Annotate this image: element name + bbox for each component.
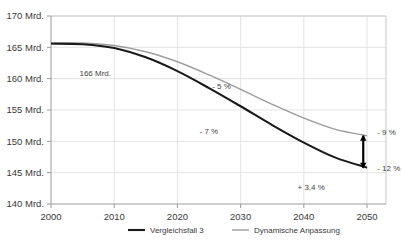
y-tick-label: 140 Mrd.: [7, 198, 45, 209]
x-tick-label: 2030: [230, 211, 251, 222]
plus-3-4-percent-label: + 3,4 %: [298, 183, 325, 192]
line-chart: 140 Mrd.145 Mrd.150 Mrd.155 Mrd.160 Mrd.…: [0, 0, 402, 246]
legend-label-0: Vergleichsfall 3: [150, 226, 204, 235]
y-tick-label: 165 Mrd.: [7, 42, 45, 53]
minus-5-percent-label: - 5 %: [212, 82, 231, 91]
minus-9-percent-label: - 9 %: [377, 128, 396, 137]
x-tick-label: 2000: [40, 211, 61, 222]
start-value-label: 166 Mrd.: [79, 69, 111, 78]
x-tick-label: 2040: [293, 211, 314, 222]
x-tick-label: 2050: [356, 211, 377, 222]
y-tick-label: 150 Mrd.: [7, 136, 45, 147]
series-line-vergleichsfall-3: [51, 44, 367, 168]
x-tick-label: 2020: [167, 211, 188, 222]
y-tick-label: 160 Mrd.: [7, 73, 45, 84]
y-tick-label: 170 Mrd.: [7, 10, 45, 21]
y-tick-label: 145 Mrd.: [7, 167, 45, 178]
x-tick-label: 2010: [104, 211, 125, 222]
minus-12-percent-label: - 12 %: [377, 164, 400, 173]
series-line-dynamische-anpassung: [51, 43, 367, 136]
y-tick-label: 155 Mrd.: [7, 104, 45, 115]
minus-7-percent-label: - 7 %: [200, 127, 219, 136]
chart-container: 140 Mrd.145 Mrd.150 Mrd.155 Mrd.160 Mrd.…: [0, 0, 402, 246]
legend-label-1: Dynamische Anpassung: [254, 226, 340, 235]
